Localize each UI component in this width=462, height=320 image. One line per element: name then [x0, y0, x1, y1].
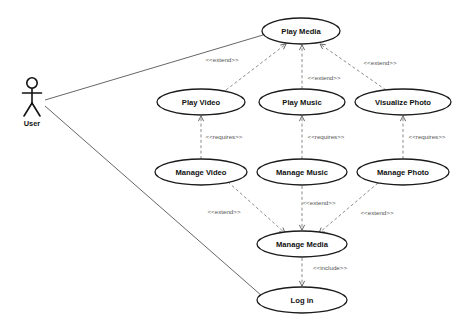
use-case-label-play_music: Play Music	[282, 98, 321, 107]
stereotype-label-manage-media-includes-log-in: <<include>>	[313, 264, 347, 271]
actor-user[interactable]: User	[23, 78, 42, 128]
use-case-label-visualize_photo: Visualize Photo	[375, 98, 431, 107]
use-case-play_media[interactable]: Play Media	[262, 18, 340, 44]
use-case-manage_video[interactable]: Manage Video	[155, 159, 247, 185]
use-case-play_video[interactable]: Play Video	[157, 89, 245, 115]
use-case-label-log_in: Log in	[291, 296, 314, 305]
stereotype-label-manage-video-extends-manage-media: <<extend>>	[207, 208, 240, 215]
dependency-visualize-photo-extends-play-media	[320, 44, 386, 90]
stereotype-label-manage-music-requires-play-music: <<requires>>	[308, 133, 345, 140]
actor-right-leg-icon	[32, 103, 40, 116]
use-cases-layer: Play MediaPlay VideoPlay MusicVisualize …	[155, 18, 451, 313]
arrowhead-visualize-photo-extends-play-media	[320, 44, 325, 49]
actor-label-user: User	[24, 119, 41, 128]
use-case-visualize_photo[interactable]: Visualize Photo	[355, 89, 451, 115]
use-case-play_music[interactable]: Play Music	[259, 89, 345, 115]
use-case-label-manage_music: Manage Music	[276, 168, 328, 177]
use-case-diagram: Play MediaPlay VideoPlay MusicVisualize …	[0, 0, 462, 320]
stereotype-label-manage-photo-requires-visualize: <<requires>>	[409, 133, 446, 140]
use-case-log_in[interactable]: Log in	[257, 287, 347, 313]
stereotype-label-play-video-extends-play-media: <<extend>>	[205, 56, 238, 63]
stereotype-label-manage-photo-extends-manage-media: <<extend>>	[360, 209, 393, 216]
use-case-manage_photo[interactable]: Manage Photo	[357, 159, 449, 185]
use-case-label-manage_media: Manage Media	[276, 240, 329, 249]
use-case-label-manage_photo: Manage Photo	[377, 168, 429, 177]
use-case-label-play_video: Play Video	[182, 98, 221, 107]
use-case-label-manage_video: Manage Video	[176, 168, 227, 177]
use-case-manage_media[interactable]: Manage Media	[257, 231, 347, 257]
association-user-play-media	[45, 35, 263, 100]
use-case-manage_music[interactable]: Manage Music	[257, 159, 347, 185]
stereotype-label-visualize-photo-extends-play-media: <<extend>>	[363, 59, 396, 66]
use-case-label-play_media: Play Media	[281, 27, 321, 36]
actor-head-icon	[27, 78, 37, 88]
actors-layer: User	[23, 78, 42, 128]
dependency-play-video-extends-play-media	[226, 44, 286, 90]
stereotype-label-manage-music-extends-manage-media: <<extend>>	[302, 199, 335, 206]
stereotype-label-play-music-extends-play-media: <<extend>>	[307, 74, 340, 81]
stereotype-label-manage-video-requires-play-video: <<requires>>	[206, 133, 243, 140]
actor-left-leg-icon	[24, 103, 32, 116]
diagram-canvas: Play MediaPlay VideoPlay MusicVisualize …	[0, 0, 462, 320]
